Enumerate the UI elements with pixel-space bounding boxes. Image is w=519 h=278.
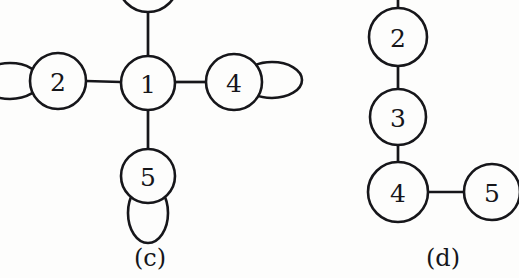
node-5: 5 <box>121 149 175 203</box>
node-4: 4 <box>206 54 262 110</box>
node-clipped <box>118 0 178 12</box>
node-label: 5 <box>484 179 500 208</box>
panels-group: 1245(c)2345(d) <box>0 0 519 272</box>
node-label: 2 <box>390 24 406 53</box>
node-2: 2 <box>369 8 427 66</box>
node-label: 2 <box>50 68 66 97</box>
node-label: 5 <box>140 163 156 192</box>
node-5: 5 <box>464 164 519 220</box>
node-label: 1 <box>140 70 156 99</box>
node-2: 2 <box>30 53 86 109</box>
edge-2-1 <box>86 81 121 82</box>
node-label: 3 <box>390 104 406 133</box>
node-label: 4 <box>390 179 406 208</box>
panel-caption: (d) <box>426 244 460 272</box>
panel-caption: (c) <box>134 244 166 272</box>
panel-c: 1245(c) <box>0 0 302 272</box>
panel-d: 2345(d) <box>368 0 519 272</box>
node-3: 3 <box>370 89 426 145</box>
node-4: 4 <box>368 162 428 222</box>
figure-page: 1245(c)2345(d) <box>0 0 519 278</box>
node-1: 1 <box>121 56 175 110</box>
node-circle <box>118 0 178 12</box>
graph-figure: 1245(c)2345(d) <box>0 0 519 278</box>
node-label: 4 <box>226 69 242 98</box>
